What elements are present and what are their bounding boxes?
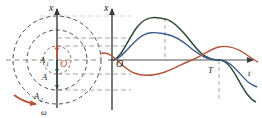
figure-canvas: x O A 1 A A 2 ω x O T t bbox=[0, 0, 262, 118]
sine-curve-a1 bbox=[100, 46, 258, 75]
amplitude-label-a2-text: A bbox=[33, 91, 40, 101]
amplitude-label-a2-sub: 2 bbox=[40, 97, 43, 103]
t-axis-label: t bbox=[248, 68, 251, 78]
left-x-axis-label: x bbox=[48, 2, 54, 13]
amplitude-label-a1: A 1 bbox=[39, 55, 49, 67]
physics-figure: x O A 1 A A 2 ω x O T t bbox=[0, 0, 262, 118]
wave-plot: x O T t bbox=[100, 2, 258, 110]
amplitude-label-a1-sub: 1 bbox=[46, 61, 49, 67]
period-label: T bbox=[208, 65, 214, 75]
right-origin-label: O bbox=[116, 58, 123, 69]
amplitude-label-a1-text: A bbox=[39, 55, 46, 65]
left-origin-label: O bbox=[60, 58, 67, 69]
amplitude-label-a: A bbox=[41, 72, 48, 82]
right-x-axis-label: x bbox=[103, 2, 109, 13]
amplitude-label-a2: A 2 bbox=[33, 91, 43, 103]
omega-label: ω bbox=[41, 108, 47, 117]
